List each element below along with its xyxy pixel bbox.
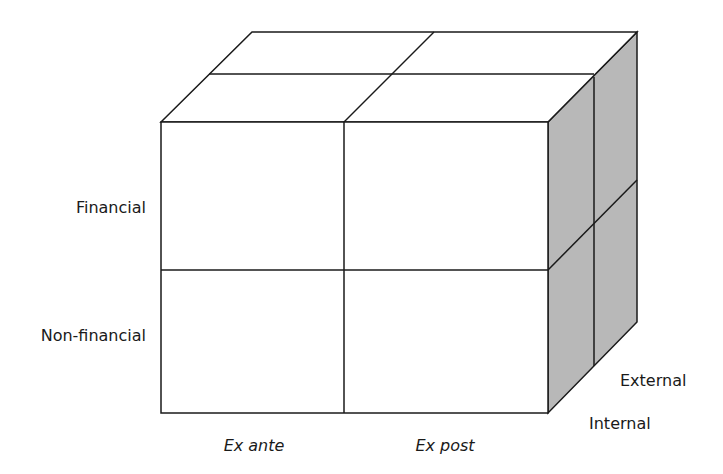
column-label-ex-post: Ex post — [415, 436, 475, 455]
depth-label-internal: Internal — [589, 414, 651, 433]
depth-label-external: External — [620, 371, 686, 390]
cube-front-face — [161, 122, 548, 413]
cube-diagram: Financial Non-financial Ex ante Ex post … — [0, 0, 723, 474]
row-label-financial: Financial — [76, 198, 146, 217]
column-label-ex-ante: Ex ante — [224, 436, 285, 455]
row-label-non-financial: Non-financial — [41, 326, 146, 345]
